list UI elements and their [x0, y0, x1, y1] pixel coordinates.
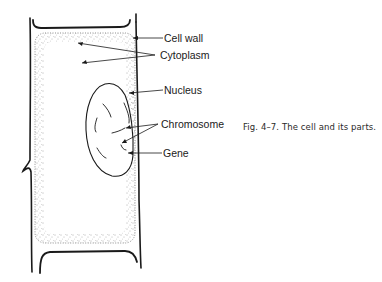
label-nucleus: Nucleus: [164, 85, 202, 96]
label-chromosome: Chromosome: [161, 119, 224, 130]
figure-caption: Fig. 4–7. The cell and its parts.: [243, 123, 376, 132]
label-cytoplasm: Cytoplasm: [160, 50, 210, 61]
label-gene: Gene: [163, 148, 189, 159]
caption-number: Fig. 4–7.: [243, 122, 279, 132]
label-cell-wall: Cell wall: [164, 33, 203, 44]
caption-text: The cell and its parts.: [282, 122, 376, 132]
